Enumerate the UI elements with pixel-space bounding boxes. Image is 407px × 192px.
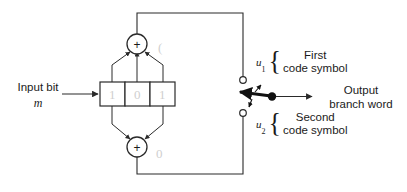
upper-adder-taps	[112, 52, 163, 82]
u2-line2: code symbol	[283, 124, 348, 137]
lower-adder-ghost-mark: 0	[156, 146, 163, 161]
lower-adder-taps	[112, 106, 163, 139]
u2-line1: Second	[283, 111, 348, 124]
lower-modulo-2-adder: +	[127, 137, 147, 157]
u2-subscript: 2	[262, 127, 266, 137]
lower-output-rail	[137, 116, 243, 174]
input-bit-label-group: Input bit m	[12, 80, 64, 110]
register-stage-3-value: 1	[159, 87, 166, 102]
register-stage-2-value: 0	[134, 87, 141, 102]
input-bit-symbol: m	[12, 96, 64, 110]
input-bit-label: Input bit	[12, 80, 64, 94]
convolutional-encoder-diagram: 1 0 1 + ( + 0	[0, 0, 407, 192]
output-branch-line1: Output	[318, 83, 404, 97]
upper-adder-ghost-mark: (	[158, 40, 162, 55]
output-branch-word: Output branch word	[318, 83, 404, 111]
output-u2-group: u2 { Second code symbol	[256, 111, 348, 137]
u1-line1: First	[283, 49, 348, 62]
upper-output-rail	[137, 13, 243, 77]
output-branch-line2: branch word	[318, 97, 404, 111]
lower-adder-plus-glyph: +	[133, 141, 140, 155]
upper-switch-contact[interactable]	[240, 77, 247, 84]
u1-text: First code symbol	[283, 49, 348, 75]
register-stage-1-value: 1	[109, 87, 116, 102]
u1-subscript: 1	[262, 65, 266, 75]
rotate-up-arrow-icon	[255, 85, 261, 92]
u2-text: Second code symbol	[283, 111, 348, 137]
shift-register: 1 0 1	[100, 82, 175, 106]
output-commutator-switch[interactable]	[240, 85, 276, 107]
lower-switch-contact[interactable]	[240, 110, 247, 117]
rotate-down-arrow-icon	[249, 99, 252, 107]
output-u1-group: u1 { First code symbol	[256, 49, 348, 75]
u1-line2: code symbol	[283, 62, 348, 75]
upper-adder-plus-glyph: +	[133, 38, 140, 52]
switch-pivot-dot[interactable]	[268, 92, 276, 100]
upper-modulo-2-adder: +	[127, 34, 147, 54]
